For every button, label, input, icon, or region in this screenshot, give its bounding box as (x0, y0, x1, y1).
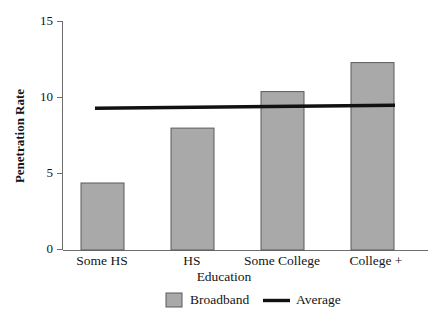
bar-hs[interactable] (171, 128, 214, 250)
x-label-some-college: Some College (244, 253, 320, 268)
x-label-some-hs: Some HS (76, 253, 127, 268)
y-tick-label-0: 0 (47, 241, 54, 256)
bar-some-college[interactable] (261, 92, 304, 250)
legend-swatch-broadband[interactable] (166, 293, 182, 307)
y-tick-label-15: 15 (40, 13, 53, 28)
x-axis-category-labels: Some HS HS Some College College + (76, 253, 402, 268)
x-axis-title: Education (197, 269, 252, 284)
y-tick-label-5: 5 (47, 165, 54, 180)
legend-label-average: Average (296, 292, 341, 307)
legend-label-broadband: Broadband (190, 292, 249, 307)
y-axis-ticks: 15 10 5 0 (40, 13, 63, 256)
x-label-hs: HS (183, 253, 200, 268)
average-line[interactable] (95, 105, 395, 108)
chart-legend: Broadband Average (166, 292, 341, 307)
y-tick-label-10: 10 (40, 89, 53, 104)
y-axis-title: Penetration Rate (12, 89, 27, 183)
bar-college-plus[interactable] (351, 63, 394, 250)
x-label-college-plus: College + (350, 253, 403, 268)
bar-some-hs[interactable] (81, 183, 124, 250)
chart-container: 15 10 5 0 Penetration Rate Some HS HS So… (0, 0, 447, 320)
bar-group (81, 63, 394, 250)
chart-canvas: 15 10 5 0 Penetration Rate Some HS HS So… (0, 0, 447, 320)
